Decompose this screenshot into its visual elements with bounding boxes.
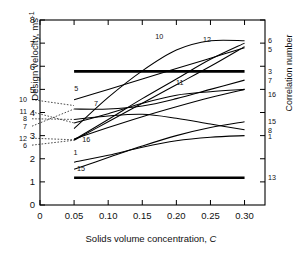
leader-line-12 xyxy=(32,138,74,140)
series-group xyxy=(74,40,244,178)
y-axis-title: Design velocity, ms-1 xyxy=(28,0,40,136)
series-line-8 xyxy=(74,114,244,130)
series-label-right-6: 6 xyxy=(268,36,272,45)
series-label-inline-15: 15 xyxy=(77,164,85,173)
series-label-right-7: 7 xyxy=(268,76,272,85)
series-label-right-16: 16 xyxy=(268,90,276,99)
y-tick-label: 1 xyxy=(30,176,35,187)
series-label-left-6: 6 xyxy=(23,141,27,150)
series-label-inline-10: 10 xyxy=(155,32,163,41)
x-tick-label: 0 xyxy=(37,210,42,221)
x-tick-label: 0.30 xyxy=(235,210,254,221)
leader-line-6 xyxy=(32,140,74,145)
series-label-inline-1: 1 xyxy=(73,148,77,157)
y-tick-label: 2 xyxy=(30,153,35,164)
series-label-inline-11: 11 xyxy=(176,78,183,87)
series-label-right-13: 13 xyxy=(268,173,276,182)
series-label-left-10: 10 xyxy=(19,95,27,104)
x-tick-label: 0.20 xyxy=(167,210,186,221)
series-label-inline-5: 5 xyxy=(74,84,78,93)
x-tick-label: 0.25 xyxy=(201,210,220,221)
series-label-inline-16: 16 xyxy=(82,135,90,144)
series-label-inline-7: 7 xyxy=(94,99,98,108)
right-axis-title: Correlation number xyxy=(284,0,294,153)
x-tick-label: 0.05 xyxy=(65,210,84,221)
series-label-right-1: 1 xyxy=(268,132,272,141)
series-line-15 xyxy=(74,122,244,169)
series-label-inline-12: 12 xyxy=(203,35,211,44)
series-label-right-15: 15 xyxy=(268,117,276,126)
series-line-1 xyxy=(74,136,244,163)
series-label-left-7: 7 xyxy=(23,122,27,131)
x-axis-title: Solids volume concentration, C xyxy=(0,233,302,244)
series-label-right-5: 5 xyxy=(268,45,272,54)
series-label-right-3: 3 xyxy=(268,67,272,76)
x-tick-label: 0.10 xyxy=(99,210,118,221)
chart-figure: Design velocity, ms-1 Correlation number… xyxy=(0,0,302,254)
series-line-16 xyxy=(74,89,244,139)
plot-area: 01234567800.050.100.150.200.250.30101187… xyxy=(0,0,302,254)
y-tick-label: 0 xyxy=(30,199,35,210)
x-tick-label: 0.15 xyxy=(133,210,152,221)
